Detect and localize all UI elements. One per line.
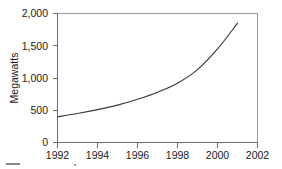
caption-remnant-dot (74, 164, 76, 166)
x-tick-marks (58, 143, 258, 148)
x-tick-label-1992: 1992 (46, 149, 70, 161)
y-tick-marks (53, 14, 58, 143)
plot-frame (58, 14, 258, 143)
x-tick-label-1994: 1994 (86, 149, 110, 161)
y-tick-label-500: 500 (30, 104, 48, 116)
series-line-installed-capacity (58, 23, 238, 117)
line-chart: 2,000 1,500 1,000 500 0 1992 1994 1996 1… (0, 0, 282, 169)
chart-figure: 2,000 1,500 1,000 500 0 1992 1994 1996 1… (0, 0, 282, 169)
x-tick-label-1996: 1996 (126, 149, 150, 161)
y-tick-label-0: 0 (42, 136, 48, 148)
x-tick-label-2002: 2002 (246, 149, 270, 161)
x-tick-label-1998: 1998 (166, 149, 190, 161)
y-axis-title: Megawatts (8, 53, 20, 104)
y-tick-label-1500: 1,500 (22, 40, 48, 52)
caption-remnant-mark (6, 163, 20, 165)
x-tick-label-2000: 2000 (206, 149, 230, 161)
y-tick-label-1000: 1,000 (22, 72, 48, 84)
y-tick-label-2000: 2,000 (22, 7, 48, 19)
